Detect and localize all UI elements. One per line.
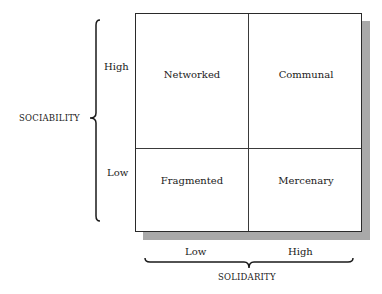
quadrant-networked: Networked bbox=[164, 69, 220, 80]
quadrant-grid: Networked Communal Fragmented Mercenary bbox=[135, 13, 362, 232]
y-axis-high-label: High bbox=[104, 61, 129, 72]
y-axis-title: SOCIABILITY bbox=[19, 113, 80, 123]
quadrant-mercenary: Mercenary bbox=[278, 175, 333, 186]
vertical-divider bbox=[248, 14, 249, 231]
quadrant-fragmented: Fragmented bbox=[161, 175, 223, 186]
quadrant-communal: Communal bbox=[279, 69, 334, 80]
y-axis-low-label: Low bbox=[107, 167, 128, 178]
left-brace-icon bbox=[88, 18, 102, 223]
bottom-brace-icon bbox=[143, 256, 355, 270]
horizontal-divider bbox=[136, 148, 361, 149]
x-axis-title: SOLIDARITY bbox=[218, 272, 276, 282]
